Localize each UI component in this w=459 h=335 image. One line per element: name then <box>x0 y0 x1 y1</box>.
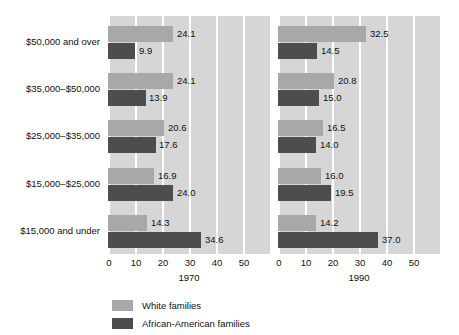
bar-value-label: 24.1 <box>177 73 196 89</box>
x-tick-label: 50 <box>409 256 420 269</box>
legend-item-white-families: White families <box>112 298 250 313</box>
bar-value-label: 14.3 <box>151 215 170 231</box>
x-tick-label: 40 <box>382 256 393 269</box>
bar-value-label: 16.5 <box>327 120 346 136</box>
bar-value-label: 16.0 <box>325 168 344 184</box>
chart-figure: $50,000 and over $35,000–$50,000 $25,000… <box>0 0 459 335</box>
category-label: $15,000–$25,000 <box>26 178 100 189</box>
bar-value-label: 32.5 <box>370 26 389 42</box>
bar-white-families <box>278 168 321 184</box>
bar-value-label: 17.6 <box>159 137 178 153</box>
x-tick-label: 10 <box>301 256 312 269</box>
bar-value-label: 14.5 <box>321 43 340 59</box>
bar-african-american-families <box>108 232 201 248</box>
bar-african-american-families <box>278 185 331 201</box>
bar-white-families <box>278 26 366 42</box>
bar-value-label: 34.6 <box>205 232 224 248</box>
x-tick-label: 10 <box>131 256 142 269</box>
panel-1970-plot-area: 24.1 9.9 24.1 13.9 20.6 17.6 16.9 24.0 1… <box>108 16 270 254</box>
chart-legend: White families African-American families <box>112 298 250 334</box>
bar-value-label: 15.0 <box>323 90 342 106</box>
bar-african-american-families <box>108 90 146 106</box>
x-tick-label: 30 <box>355 256 366 269</box>
bar-white-families <box>278 73 334 89</box>
x-tick-label: 20 <box>158 256 169 269</box>
bar-value-label: 14.2 <box>320 215 339 231</box>
gridline <box>189 16 191 254</box>
bar-white-families <box>108 120 164 136</box>
bar-african-american-families <box>278 232 378 248</box>
bar-african-american-families <box>108 137 156 153</box>
category-label: $25,000–$35,000 <box>26 130 100 141</box>
bar-value-label: 14.0 <box>320 137 339 153</box>
panel-label-1990: 1990 <box>278 272 440 284</box>
gridline <box>359 16 361 254</box>
x-tick-label: 0 <box>276 256 281 269</box>
x-tick-label: 0 <box>106 256 111 269</box>
bar-value-label: 16.9 <box>158 168 177 184</box>
bar-value-label: 24.0 <box>177 185 196 201</box>
legend-item-african-american-families: African-American families <box>112 316 250 331</box>
gridline <box>386 16 388 254</box>
bar-african-american-families <box>278 137 316 153</box>
bar-african-american-families <box>108 43 135 59</box>
panel-label-1970: 1970 <box>108 272 270 284</box>
x-tick-label: 30 <box>185 256 196 269</box>
bar-value-label: 19.5 <box>335 185 354 201</box>
bar-value-label: 37.0 <box>382 232 401 248</box>
x-tick-label: 50 <box>239 256 250 269</box>
bar-white-families <box>108 73 173 89</box>
bar-value-label: 9.9 <box>139 43 152 59</box>
x-axis-1970: 0 10 20 30 40 50 <box>108 256 270 272</box>
legend-label: African-American families <box>142 318 250 329</box>
legend-label: White families <box>142 300 201 311</box>
bar-african-american-families <box>278 43 317 59</box>
bar-value-label: 24.1 <box>177 26 196 42</box>
bar-white-families <box>108 215 147 231</box>
bar-white-families <box>108 26 173 42</box>
bar-value-label: 20.8 <box>338 73 357 89</box>
x-axis-1990: 0 10 20 30 40 50 <box>278 256 440 272</box>
legend-swatch-icon <box>112 318 133 329</box>
category-label: $15,000 and under <box>20 225 100 236</box>
gridline <box>243 16 245 254</box>
bar-african-american-families <box>108 185 173 201</box>
category-label: $35,000–$50,000 <box>26 83 100 94</box>
gridline <box>216 16 218 254</box>
bar-african-american-families <box>278 90 319 106</box>
x-tick-label: 40 <box>212 256 223 269</box>
gridline <box>413 16 415 254</box>
category-axis-labels: $50,000 and over $35,000–$50,000 $25,000… <box>0 16 104 254</box>
bar-value-label: 13.9 <box>149 90 168 106</box>
bar-white-families <box>278 120 323 136</box>
bar-white-families <box>108 168 154 184</box>
bar-value-label: 20.6 <box>168 120 187 136</box>
bar-white-families <box>278 215 316 231</box>
category-label: $50,000 and over <box>26 36 100 47</box>
legend-swatch-icon <box>112 300 133 311</box>
panel-1990-plot-area: 32.5 14.5 20.8 15.0 16.5 14.0 16.0 19.5 … <box>278 16 440 254</box>
x-tick-label: 20 <box>328 256 339 269</box>
